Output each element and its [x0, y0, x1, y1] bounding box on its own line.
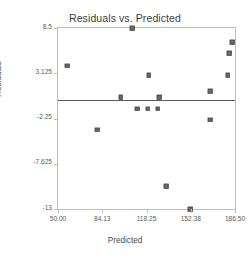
y-tick-label: -2.25 [4, 113, 52, 120]
y-axis-label: Residuals [0, 61, 3, 97]
zero-reference-line [58, 100, 235, 101]
data-point [146, 73, 151, 78]
data-point [156, 107, 161, 112]
data-point [145, 107, 150, 112]
data-point [227, 51, 232, 56]
data-point [230, 40, 235, 45]
y-tick-label: 8.5 [4, 23, 52, 30]
data-point [118, 95, 123, 100]
data-point [208, 117, 213, 122]
y-tick-mark [54, 119, 58, 120]
x-tick-label: 152.38 [167, 215, 215, 222]
y-tick-label: -7.625 [4, 158, 52, 165]
y-tick-label: 3.125 [4, 68, 52, 75]
y-tick-mark [54, 28, 58, 29]
x-tick-mark [147, 209, 148, 213]
y-tick-label: -13 [4, 204, 52, 211]
x-tick-label: 50.00 [34, 215, 82, 222]
data-point [95, 128, 100, 133]
data-point [130, 26, 135, 31]
x-axis-label: Predicted [0, 236, 250, 245]
x-tick-label: 84.13 [78, 215, 126, 222]
data-point [65, 64, 70, 69]
plot-area: 8.53.125-2.25-7.625-13 50.0084.13118.251… [57, 27, 236, 210]
x-tick-label: 186.50 [211, 215, 250, 222]
x-tick-mark [191, 209, 192, 213]
y-tick-mark [54, 73, 58, 74]
data-point [226, 73, 231, 78]
data-point [157, 95, 162, 100]
y-tick-mark [54, 164, 58, 165]
data-point [135, 107, 140, 112]
x-tick-mark [58, 209, 59, 213]
x-tick-mark [235, 209, 236, 213]
x-tick-mark [102, 209, 103, 213]
data-point [208, 89, 213, 94]
residuals-scatter-chart: Residuals vs. Predicted 8.53.125-2.25-7.… [0, 0, 250, 258]
data-point [164, 184, 169, 189]
x-tick-label: 118.25 [123, 215, 171, 222]
